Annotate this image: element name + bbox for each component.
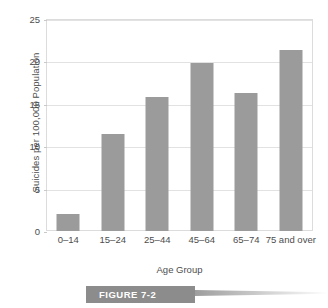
bars-layer — [46, 19, 313, 231]
x-tick-label: 75 and over — [265, 234, 317, 246]
y-tick-label: 15 — [14, 98, 40, 109]
bar — [235, 93, 258, 231]
y-tick-label: 25 — [14, 14, 40, 25]
bar-slot — [269, 19, 314, 231]
bar — [101, 134, 124, 231]
caption-label: FIGURE 7-2 — [99, 289, 156, 300]
y-axis-title: Suicides per 100,000 Population — [30, 8, 41, 238]
caption-tail-rule — [195, 290, 328, 296]
x-axis-title: Age Group — [46, 264, 313, 275]
bar — [57, 214, 80, 231]
bar-slot — [135, 19, 180, 231]
bar-slot — [224, 19, 269, 231]
bar — [190, 63, 213, 231]
y-tick-label: 10 — [14, 141, 40, 152]
bar-slot — [91, 19, 136, 231]
y-tick-label: 5 — [14, 183, 40, 194]
bar — [279, 50, 302, 231]
figure-container: Suicides per 100,000 Population 0–1415–2… — [0, 0, 328, 308]
y-tick-label: 0 — [14, 226, 40, 237]
bar-slot — [46, 19, 91, 231]
y-tick-label: 20 — [14, 56, 40, 67]
bar — [146, 97, 169, 231]
figure-caption: FIGURE 7-2 — [86, 286, 328, 303]
x-axis-tick-labels: 0–1415–2425–4445–6465–7475 and over — [46, 234, 313, 268]
y-tick-mark — [44, 232, 47, 233]
bar-slot — [180, 19, 225, 231]
